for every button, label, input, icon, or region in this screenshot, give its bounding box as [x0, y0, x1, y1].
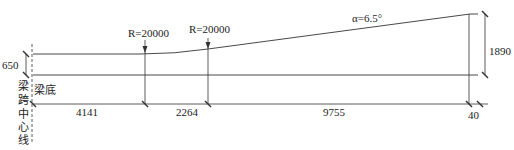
beam-diagram: R=20000 R=20000 α=6.5° 650 1890 4141 226…: [0, 0, 514, 150]
left-height-value: 650: [2, 59, 19, 71]
radius-1-label: R=20000: [128, 27, 170, 39]
diagram-svg: R=20000 R=20000 α=6.5° 650 1890 4141 226…: [0, 0, 514, 150]
segment-2-value: 2264: [176, 106, 199, 118]
segment-1-value: 4141: [76, 106, 98, 118]
segment-4-value: 40: [468, 109, 480, 121]
angle-label: α=6.5°: [352, 12, 382, 24]
centerline-char: 心: [18, 121, 29, 134]
beam-bottom-label: 梁底: [34, 83, 56, 97]
arrow-down-icon: [206, 42, 211, 49]
centerline-char: 中: [18, 108, 29, 121]
right-height-value: 1890: [489, 45, 512, 57]
segment-3-value: 9755: [323, 106, 346, 118]
arrow-down-icon: [143, 46, 148, 53]
centerline-char: 跨: [18, 94, 29, 107]
centerline-char: 线: [18, 133, 29, 147]
beam-top-profile: [33, 14, 478, 54]
radius-2-label: R=20000: [189, 23, 231, 35]
centerline-char: 梁: [18, 79, 29, 93]
